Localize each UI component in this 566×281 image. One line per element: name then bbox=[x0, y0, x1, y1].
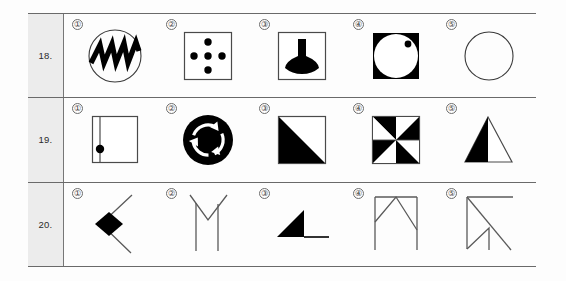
options-row: ① ② bbox=[64, 98, 536, 181]
option-cell-19-4[interactable]: ④ bbox=[349, 98, 443, 181]
option-cell-18-4[interactable]: ④ bbox=[349, 14, 443, 97]
figure-plain-circle bbox=[460, 27, 518, 85]
figure-circle-with-zigzag bbox=[84, 25, 146, 87]
figure-triangle-half-black bbox=[460, 112, 518, 168]
option-cell-20-4[interactable]: ④ bbox=[349, 183, 443, 266]
question-number-cell: 19. bbox=[28, 98, 64, 181]
option-cell-20-5[interactable]: ⑤ bbox=[442, 183, 536, 266]
option-cell-18-3[interactable]: ③ bbox=[255, 14, 349, 97]
option-label: ② bbox=[166, 188, 177, 199]
option-label: ⑤ bbox=[446, 19, 457, 30]
option-label: ① bbox=[72, 19, 83, 30]
option-label: ⑤ bbox=[446, 103, 457, 114]
figure-square-black-flask bbox=[274, 28, 330, 84]
option-cell-20-1[interactable]: ① bbox=[68, 183, 162, 266]
option-label: ② bbox=[166, 19, 177, 30]
option-label: ① bbox=[72, 103, 83, 114]
option-cell-18-5[interactable]: ⑤ bbox=[442, 14, 536, 97]
options-row: ① ② bbox=[64, 14, 536, 97]
option-label: ③ bbox=[259, 188, 270, 199]
figure-pinwheel-square bbox=[368, 112, 424, 168]
option-cell-19-2[interactable]: ② bbox=[162, 98, 256, 181]
figure-black-square-white-circle-dot bbox=[368, 28, 424, 84]
option-label: ⑤ bbox=[446, 188, 457, 199]
option-cell-18-2[interactable]: ② bbox=[162, 14, 256, 97]
figure-square-black-left-triangle bbox=[274, 112, 330, 168]
option-cell-19-3[interactable]: ③ bbox=[255, 98, 349, 181]
option-label: ④ bbox=[353, 103, 364, 114]
options-row: ① ② bbox=[64, 183, 536, 266]
question-number: 20. bbox=[39, 219, 53, 230]
option-cell-20-2[interactable]: ② bbox=[162, 183, 256, 266]
question-number-cell: 20. bbox=[28, 183, 64, 266]
option-label: ③ bbox=[259, 19, 270, 30]
table-row: 18. ① ② bbox=[28, 14, 536, 97]
question-number: 19. bbox=[39, 134, 53, 145]
figure-chevron-with-diamond bbox=[85, 192, 145, 256]
table-row: 20. ① ② bbox=[28, 182, 536, 266]
figure-square-vertical-line-dot bbox=[87, 112, 143, 168]
figure-square-five-dots bbox=[180, 28, 236, 84]
option-cell-19-5[interactable]: ⑤ bbox=[442, 98, 536, 181]
option-label: ④ bbox=[353, 188, 364, 199]
option-cell-19-1[interactable]: ① bbox=[68, 98, 162, 181]
figure-black-circle-recycle-arrows bbox=[179, 111, 237, 169]
table-row: 19. ① ② bbox=[28, 97, 536, 181]
figure-v-with-two-stems bbox=[180, 192, 236, 256]
worksheet-page: 18. ① ② bbox=[0, 0, 566, 281]
option-label: ③ bbox=[259, 103, 270, 114]
question-number: 18. bbox=[39, 50, 53, 61]
option-cell-20-3[interactable]: ③ bbox=[255, 183, 349, 266]
option-label: ④ bbox=[353, 19, 364, 30]
figure-black-right-triangle-with-tail bbox=[271, 196, 333, 252]
question-number-cell: 18. bbox=[28, 14, 64, 97]
question-table: 18. ① ② bbox=[28, 13, 536, 267]
option-label: ② bbox=[166, 103, 177, 114]
option-cell-18-1[interactable]: ① bbox=[68, 14, 162, 97]
figure-bridge-lines bbox=[367, 192, 425, 256]
figure-flag-diagonal-lines bbox=[459, 192, 519, 256]
option-label: ① bbox=[72, 188, 83, 199]
